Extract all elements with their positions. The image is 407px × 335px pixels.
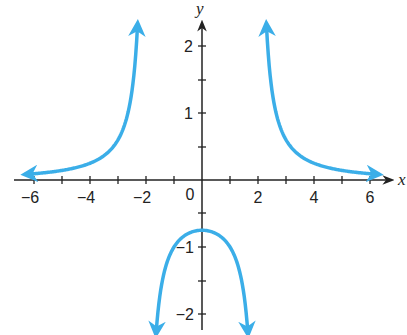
x-tick-label: −2: [133, 189, 151, 206]
x-tick-label: −6: [21, 189, 39, 206]
curve-left-branch: [26, 24, 138, 174]
curve-right-branch: [266, 24, 378, 174]
x-tick-label: 2: [254, 189, 263, 206]
x-tick-label: 6: [366, 189, 375, 206]
x-tick-label: 4: [310, 189, 319, 206]
y-tick-label: 2: [184, 38, 193, 55]
y-axis-label: y: [194, 0, 204, 18]
function-graph: −6 −4 −2 0 2 4 6 2 1 −1 −2 x y: [0, 0, 407, 335]
origin-label: 0: [186, 186, 195, 203]
x-tick-label: −4: [77, 189, 95, 206]
x-axis-label: x: [397, 170, 406, 189]
y-tick-label: 1: [184, 105, 193, 122]
y-tick-label: −2: [176, 306, 194, 323]
